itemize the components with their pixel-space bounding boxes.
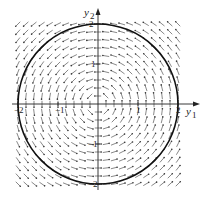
arrow-head (78, 32, 80, 34)
field-arrow (63, 46, 69, 49)
field-arrow (26, 93, 27, 99)
field-arrow (47, 22, 52, 25)
field-arrow (160, 30, 165, 34)
arrow-head (155, 149, 157, 151)
field-arrow (87, 40, 93, 41)
field-arrow (160, 22, 165, 26)
arrow-head (103, 93, 105, 95)
arrow-head (78, 40, 80, 42)
field-arrow (16, 149, 19, 154)
field-arrow (152, 38, 157, 42)
tick-label-x-neg1: −1 (55, 105, 65, 115)
arrow-head (146, 108, 148, 110)
field-arrow (111, 175, 117, 176)
tick-label-y-neg1: −1 (88, 139, 98, 149)
arrow-head (118, 38, 120, 40)
arrow-head (127, 53, 129, 55)
field-arrow (47, 30, 52, 34)
field-arrow (16, 166, 20, 171)
arrow-head (75, 129, 77, 131)
arrow-head (160, 68, 162, 70)
field-arrow (103, 71, 109, 73)
arrow-head (68, 145, 70, 147)
field-arrow (144, 46, 149, 50)
arrow-head (102, 78, 104, 80)
field-arrow (103, 176, 109, 177)
arrow-head (160, 84, 162, 86)
arrow-head (124, 174, 126, 176)
arrow-head (86, 48, 88, 50)
field-arrow (48, 158, 53, 162)
field-arrow (72, 126, 77, 131)
arrow-head (100, 127, 102, 129)
field-arrow (111, 39, 117, 41)
field-arrow (71, 151, 77, 154)
arrow-head (46, 25, 48, 27)
arrow-head (124, 158, 126, 160)
field-arrow (32, 22, 37, 26)
field-arrow (135, 46, 140, 50)
field-arrow (128, 62, 133, 66)
field-arrow (57, 117, 59, 123)
field-arrow (79, 63, 85, 65)
arrow-head (107, 109, 109, 111)
arrow-head (31, 50, 33, 52)
arrow-head (105, 100, 107, 102)
field-arrow (33, 77, 35, 83)
arrow-head (66, 114, 68, 116)
arrow-head (160, 76, 162, 78)
field-arrow (113, 109, 116, 115)
field-arrow (161, 117, 163, 123)
arrow-head (100, 143, 102, 145)
field-arrow (64, 62, 69, 66)
arrow-head (59, 130, 61, 132)
arrow-head (126, 46, 128, 48)
field-arrow (113, 93, 116, 99)
field-arrow (48, 46, 53, 50)
arrow-head (60, 161, 62, 163)
field-arrow (48, 133, 52, 138)
field-arrow (56, 77, 59, 82)
field-arrow (32, 141, 35, 146)
arrow-head (86, 64, 88, 66)
arrow-head (32, 74, 34, 76)
arrow-head (108, 134, 110, 136)
field-arrow (17, 69, 19, 75)
field-arrow (40, 38, 45, 42)
tick-label-x-1: 1 (136, 105, 141, 115)
arrow-head (51, 153, 53, 155)
arrow-head (19, 178, 21, 180)
field-arrow (112, 118, 117, 123)
field-arrow (160, 61, 163, 66)
arrow-head (142, 22, 144, 24)
field-arrow (168, 174, 173, 179)
arrow-head (27, 146, 29, 148)
arrow-head (178, 124, 180, 126)
arrow-head (152, 76, 154, 78)
field-arrow (65, 93, 67, 99)
field-arrow (119, 31, 125, 33)
field-arrow (137, 117, 139, 123)
arrow-head (25, 90, 27, 92)
field-arrow (32, 61, 35, 66)
arrow-head (170, 116, 172, 118)
arrow-head (137, 100, 139, 102)
arrow-head (76, 153, 78, 155)
arrow-head (62, 41, 64, 43)
arrow-head (178, 116, 180, 118)
arrow-head (58, 122, 60, 124)
field-arrow (24, 22, 29, 26)
arrow-head (121, 100, 123, 102)
arrow-head (176, 76, 178, 78)
field-arrow (119, 159, 125, 162)
field-arrow (32, 158, 36, 163)
arrow-head (144, 84, 146, 86)
arrow-head (167, 21, 169, 23)
field-arrow (160, 182, 165, 186)
field-arrow (111, 47, 117, 49)
field-arrow (129, 93, 131, 99)
field-arrow (169, 85, 170, 91)
arrow-head (94, 55, 96, 57)
arrow-head (83, 114, 85, 116)
field-arrow (72, 85, 76, 90)
